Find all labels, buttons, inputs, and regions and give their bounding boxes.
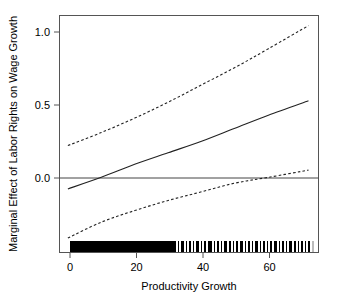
lower-confidence-bound-line bbox=[68, 170, 309, 238]
marginal-effect-line bbox=[68, 101, 309, 189]
y-tick-label-1: 1.0 bbox=[35, 26, 50, 38]
y-tick-label-3: 0.0 bbox=[35, 172, 50, 184]
data-curves bbox=[68, 26, 309, 238]
plot-frame bbox=[60, 16, 319, 253]
y-tick-label-2: 0.5 bbox=[35, 99, 50, 111]
y-axis-ticks bbox=[54, 32, 59, 178]
y-axis-title: Marginal Effect of Labor Rights on Wage … bbox=[7, 16, 19, 252]
x-axis-title: Productivity Growth bbox=[141, 280, 236, 292]
x-tick-label-2: 20 bbox=[130, 261, 142, 273]
y-axis-tick-labels: 1.0 0.5 0.0 bbox=[35, 26, 50, 184]
marginal-effects-figure: 1.0 0.5 0.0 0 20 40 60 Productivity Grow… bbox=[0, 0, 337, 308]
figure-caption-cropped bbox=[0, 296, 337, 308]
x-tick-label-3: 40 bbox=[197, 261, 209, 273]
rug-sparse-marks bbox=[174, 241, 314, 252]
rug-plot bbox=[70, 241, 314, 252]
x-tick-label-1: 0 bbox=[67, 261, 73, 273]
x-axis-tick-labels: 0 20 40 60 bbox=[67, 261, 276, 273]
upper-confidence-bound-line bbox=[68, 26, 309, 146]
rug-dense-band bbox=[70, 241, 174, 252]
x-tick-label-4: 60 bbox=[263, 261, 275, 273]
marginal-effects-plot: 1.0 0.5 0.0 0 20 40 60 Productivity Grow… bbox=[0, 0, 337, 308]
